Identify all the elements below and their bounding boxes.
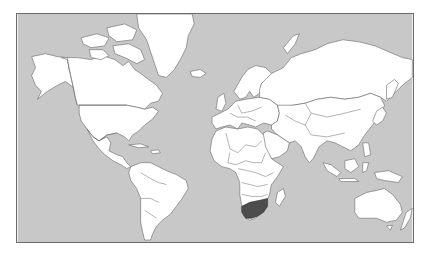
world-map-frame xyxy=(16,13,414,243)
world-map xyxy=(17,14,413,242)
java xyxy=(339,179,359,182)
hispaniola xyxy=(151,150,161,154)
